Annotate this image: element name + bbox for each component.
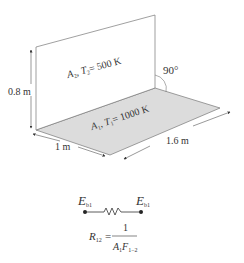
length-label: 1.6 m xyxy=(166,135,189,146)
width-label: 1 m xyxy=(55,141,71,152)
resistor xyxy=(85,208,141,215)
thermal-circuit: Eb1 Eb1 R12 = 1 A1F1−2 xyxy=(77,193,150,253)
fraction-numerator: 1 xyxy=(123,222,128,233)
resistance-label: R12 xyxy=(88,230,102,243)
equals-sign: = xyxy=(105,230,111,242)
angle-label: 90° xyxy=(163,64,178,76)
right-node-label: Eb1 xyxy=(135,193,150,208)
radiation-geometry-diagram: A2, T2= 500 K A1, T1= 1000 K 90° 0.8 m 1… xyxy=(0,0,244,263)
fraction-denominator: A1F1−2 xyxy=(112,241,138,253)
length-dimension-line xyxy=(124,146,150,159)
left-node-label: Eb1 xyxy=(77,193,92,208)
height-label: 0.8 m xyxy=(8,86,31,97)
